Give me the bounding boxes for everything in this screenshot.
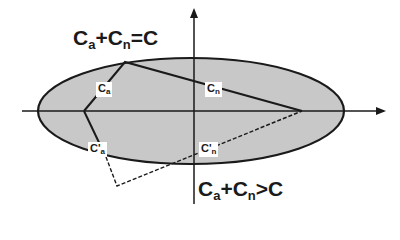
equation-top: Ca+Cn=C	[73, 27, 158, 51]
eq-top-c1: C	[73, 26, 88, 49]
label-ca-base: C	[98, 82, 106, 94]
eq-bottom-c1: C	[198, 177, 213, 200]
label-ca-prime-base: C'	[90, 142, 101, 154]
label-ca-sub: a	[106, 87, 110, 96]
eq-top-rhs: C	[143, 26, 158, 49]
eq-top-s2: n	[123, 37, 131, 52]
label-cn-prime-base: C'	[201, 142, 212, 154]
equation-bottom: Ca+Cn>C	[198, 178, 283, 202]
label-ca: Ca	[96, 82, 112, 97]
eq-bottom-rhs: C	[268, 177, 283, 200]
eq-bottom-s2: n	[248, 188, 256, 203]
eq-top-op: +	[95, 26, 107, 49]
label-cn-base: C	[207, 82, 215, 94]
eq-bottom-c2: C	[233, 177, 248, 200]
label-ca-prime: C'a	[88, 142, 107, 157]
label-cn-prime-sub: n	[212, 147, 217, 156]
eq-top-c2: C	[108, 26, 123, 49]
eq-bottom-rel: >	[256, 177, 268, 200]
label-cn-sub: n	[215, 87, 220, 96]
eq-top-rel: =	[131, 26, 143, 49]
label-cn: Cn	[205, 82, 222, 97]
label-cn-prime: C'n	[199, 142, 218, 157]
eq-bottom-op: +	[220, 177, 232, 200]
label-ca-prime-sub: a	[101, 147, 105, 156]
